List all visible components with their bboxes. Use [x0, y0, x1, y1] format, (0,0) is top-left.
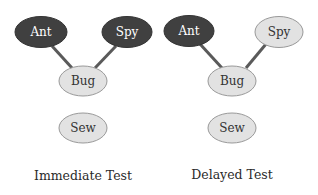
- node-spy: Spy: [255, 17, 303, 48]
- node-sew: Sew: [59, 113, 107, 143]
- panel-delayed-test: Ant Spy Bug Sew Delayed Test: [164, 16, 303, 183]
- node-label: Bug: [220, 74, 245, 88]
- node-label: Ant: [177, 24, 199, 38]
- caption-delayed-test: Delayed Test: [191, 167, 273, 182]
- edge-ant-bug: [52, 46, 72, 68]
- edge-ant-bug: [200, 44, 222, 68]
- node-bug: Bug: [59, 66, 107, 96]
- node-ant: Ant: [15, 17, 67, 48]
- caption-immediate-test: Immediate Test: [34, 168, 132, 183]
- node-label: Bug: [71, 74, 96, 88]
- edge-spy-bug: [246, 44, 266, 68]
- node-sew: Sew: [208, 113, 256, 143]
- node-spy: Spy: [102, 17, 152, 48]
- edge-spy-bug: [95, 46, 116, 68]
- node-label: Ant: [29, 25, 51, 39]
- diagram: Ant Spy Bug Sew Immediate Test Ant Spy: [0, 0, 318, 195]
- node-label: Spy: [268, 25, 291, 39]
- node-label: Sew: [70, 121, 96, 135]
- panel-immediate-test: Ant Spy Bug Sew Immediate Test: [15, 17, 152, 184]
- node-bug: Bug: [208, 66, 256, 96]
- node-label: Spy: [116, 25, 139, 39]
- node-label: Sew: [219, 121, 245, 135]
- node-ant: Ant: [164, 16, 214, 47]
